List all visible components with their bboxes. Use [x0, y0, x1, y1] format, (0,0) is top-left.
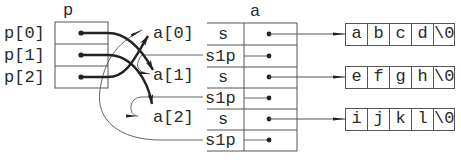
char-cell-null: \0	[433, 66, 455, 89]
a-element-label: a[2]	[153, 109, 194, 126]
a-element-label: a[1]	[153, 67, 194, 84]
p-array-name: p	[63, 2, 73, 19]
field-label-s: s	[218, 111, 228, 128]
field-label-s1p: s1p	[205, 48, 236, 65]
p-element-label: p[0]	[4, 25, 45, 42]
char-cell-null: \0	[433, 23, 455, 46]
char-cell: f	[367, 66, 390, 89]
char-cell: b	[367, 23, 390, 46]
char-cell: j	[367, 108, 390, 131]
char-cell: e	[345, 66, 368, 89]
char-cell-null: \0	[433, 108, 455, 131]
char-cell: a	[345, 23, 368, 46]
char-cell: i	[345, 108, 368, 131]
char-cell: h	[411, 66, 434, 89]
p-dots	[78, 30, 83, 79]
a-element-label: a[0]	[153, 25, 194, 42]
p-element-label: p[1]	[4, 47, 45, 64]
field-label-s1p: s1p	[205, 132, 236, 149]
field-label-s1p: s1p	[205, 90, 236, 107]
char-cell: c	[389, 23, 412, 46]
char-cell: d	[411, 23, 434, 46]
p-element-label: p[2]	[4, 69, 45, 86]
a-array-name: a	[250, 3, 260, 20]
char-cell: l	[411, 108, 434, 131]
a-dots	[267, 32, 272, 143]
field-label-s: s	[218, 69, 228, 86]
s-pointers	[269, 34, 345, 119]
char-cell: k	[389, 108, 412, 131]
field-label-s: s	[218, 26, 228, 43]
char-cell: g	[389, 66, 412, 89]
